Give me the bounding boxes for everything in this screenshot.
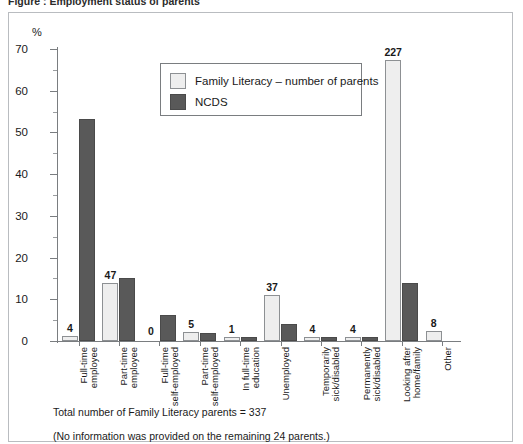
x-tick: [281, 342, 282, 346]
y-tick-minor: [53, 153, 57, 154]
x-tick: [159, 342, 160, 346]
y-tick-label: 70: [0, 44, 28, 54]
bar: [102, 283, 118, 341]
legend-item-ncds: NCDS: [170, 93, 228, 110]
x-tick: [402, 342, 403, 346]
bar: [304, 337, 320, 341]
bar-value-label: 8: [414, 318, 454, 329]
y-tick-major: [50, 49, 57, 50]
y-tick-minor: [53, 237, 57, 238]
y-tick-label: 0: [0, 336, 28, 346]
bar: [224, 337, 240, 341]
bar: [321, 337, 337, 341]
x-axis-line: [57, 341, 461, 342]
legend-label-ncds: NCDS: [195, 96, 228, 108]
y-tick-major: [50, 341, 57, 342]
bar-value-label: 4: [333, 324, 373, 335]
bar: [264, 295, 280, 341]
x-category-label: Permanently sick/disabled: [362, 347, 382, 444]
y-tick-major: [50, 174, 57, 175]
legend-swatch-ncds: [170, 94, 186, 110]
y-tick-label: 10: [0, 294, 28, 304]
y-tick-label: 40: [0, 169, 28, 179]
bar-value-label: 37: [252, 282, 292, 293]
figure-caption: Figure : Employment status of parents: [8, 0, 308, 7]
x-tick: [361, 342, 362, 346]
y-tick-minor: [53, 70, 57, 71]
y-tick-label: 50: [0, 127, 28, 137]
chart-legend: Family Literacy – number of parents NCDS: [160, 63, 362, 116]
bar-value-label: 227: [373, 47, 413, 58]
x-tick: [442, 342, 443, 346]
y-tick-major: [50, 216, 57, 217]
x-tick: [119, 342, 120, 346]
x-tick: [321, 342, 322, 346]
y-tick-minor: [53, 195, 57, 196]
y-axis-line: [57, 47, 58, 343]
x-tick: [79, 342, 80, 346]
bar: [79, 119, 95, 341]
y-tick-major: [50, 258, 57, 259]
figure-container: Figure : Employment status of parents % …: [0, 0, 523, 444]
y-tick-major: [50, 91, 57, 92]
y-tick-label: 20: [0, 253, 28, 263]
y-tick-major: [50, 299, 57, 300]
bar-value-label: 4: [292, 324, 332, 335]
bar: [62, 336, 78, 341]
y-tick-minor: [53, 112, 57, 113]
bar: [241, 337, 257, 341]
x-tick: [240, 342, 241, 346]
y-tick-label: 30: [0, 211, 28, 221]
legend-item-family-literacy: Family Literacy – number of parents: [170, 72, 378, 89]
footnote-missing-info: (No information was provided on the rema…: [53, 430, 330, 442]
x-category-label: Looking after home/family: [402, 347, 422, 444]
x-tick: [200, 342, 201, 346]
footnote-total-parents: Total number of Family Literacy parents …: [53, 406, 266, 418]
bar-value-label: 1: [212, 324, 252, 335]
x-category-label: Other: [443, 347, 453, 444]
bar: [402, 283, 418, 341]
y-tick-major: [50, 132, 57, 133]
y-tick-label: 60: [0, 86, 28, 96]
bar: [426, 331, 442, 341]
bar: [345, 337, 361, 341]
bar: [362, 337, 378, 341]
bar: [385, 60, 401, 341]
y-tick-minor: [53, 278, 57, 279]
bar: [183, 332, 199, 341]
bar-value-label: 5: [171, 319, 211, 330]
legend-label-family-literacy: Family Literacy – number of parents: [195, 75, 378, 87]
y-axis-unit-label: %: [32, 26, 42, 38]
legend-swatch-family-literacy: [170, 73, 186, 89]
y-tick-minor: [53, 320, 57, 321]
